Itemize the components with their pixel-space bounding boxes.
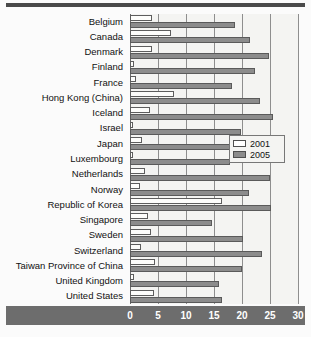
bar-2001 <box>130 107 150 113</box>
bar-row <box>130 274 298 289</box>
category-label: Republic of Korea <box>47 200 123 210</box>
bar-2001 <box>130 274 134 280</box>
bar-2005 <box>130 220 212 226</box>
bar-2001 <box>130 46 152 52</box>
x-tick-label-15: 15 <box>208 310 219 321</box>
category-label: United States <box>66 291 123 301</box>
bar-row <box>130 229 298 244</box>
category-label: France <box>93 78 123 88</box>
bar-2001 <box>130 152 133 158</box>
bar-2005 <box>130 281 219 287</box>
x-tick-label-10: 10 <box>180 310 191 321</box>
bar-row <box>130 259 298 274</box>
bar-2005 <box>130 22 235 28</box>
bar-2005 <box>130 175 270 181</box>
bar-2001 <box>130 198 222 204</box>
category-label: Israel <box>100 123 123 133</box>
bar-2001 <box>130 168 145 174</box>
category-label: Norway <box>91 185 123 195</box>
bar-row <box>130 15 298 30</box>
category-label: Netherlands <box>72 169 123 179</box>
bar-2001 <box>130 61 134 67</box>
bar-2001 <box>130 229 151 235</box>
bar-2001 <box>130 122 133 128</box>
bar-2001 <box>130 259 155 265</box>
bar-row <box>130 290 298 305</box>
category-label: United Kingdom <box>55 276 123 286</box>
legend-swatch-2005-icon <box>233 151 246 158</box>
category-label: Japan <box>97 139 123 149</box>
legend-label-2001: 2001 <box>250 139 270 149</box>
chart-figure: BelgiumCanadaDenmarkFinlandFranceHong Ko… <box>0 0 311 337</box>
bar-2001 <box>130 213 148 219</box>
bar-2001 <box>130 15 152 21</box>
bar-2005 <box>130 251 262 257</box>
bar-2005 <box>130 236 243 242</box>
legend-label-2005: 2005 <box>250 150 270 160</box>
bar-2005 <box>130 114 273 120</box>
bar-row <box>130 46 298 61</box>
bar-2005 <box>130 297 222 303</box>
x-tick-label-20: 20 <box>236 310 247 321</box>
bar-row <box>130 107 298 122</box>
bar-row <box>130 30 298 45</box>
bar-2005 <box>130 83 232 89</box>
bar-row <box>130 183 298 198</box>
category-label: Finland <box>92 62 123 72</box>
bar-2005 <box>130 205 271 211</box>
bar-2005 <box>130 144 241 150</box>
x-tick-label-5: 5 <box>155 310 161 321</box>
bar-2005 <box>130 129 241 135</box>
category-axis-labels: BelgiumCanadaDenmarkFinlandFranceHong Ko… <box>0 14 127 304</box>
bar-2001 <box>130 137 142 143</box>
bar-2005 <box>130 190 249 196</box>
bar-row <box>130 213 298 228</box>
category-label: Iceland <box>92 108 123 118</box>
bar-row <box>130 198 298 213</box>
bar-2005 <box>130 98 260 104</box>
bar-2005 <box>130 37 250 43</box>
top-divider-rule <box>6 3 305 7</box>
bar-2001 <box>130 76 136 82</box>
category-label: Denmark <box>84 47 123 57</box>
bar-row <box>130 76 298 91</box>
bar-2001 <box>130 183 140 189</box>
gridline-30 <box>298 14 299 304</box>
bar-row <box>130 91 298 106</box>
category-label: Canada <box>90 32 123 42</box>
category-label: Luxembourg <box>70 154 123 164</box>
legend-item-2001: 2001 <box>233 138 281 149</box>
bar-2005 <box>130 159 230 165</box>
x-tick-label-30: 30 <box>292 310 303 321</box>
value-axis-band: 051015202530 <box>6 306 305 325</box>
legend-swatch-2001-icon <box>233 140 246 147</box>
category-label: Taiwan Province of China <box>16 261 123 271</box>
category-label: Sweden <box>89 230 123 240</box>
bar-2001 <box>130 244 141 250</box>
bar-2001 <box>130 290 154 296</box>
category-label: Belgium <box>89 17 123 27</box>
chart-legend: 2001 2005 <box>229 135 285 163</box>
bar-2005 <box>130 53 269 59</box>
bar-2005 <box>130 68 255 74</box>
x-tick-label-25: 25 <box>264 310 275 321</box>
x-tick-label-0: 0 <box>127 310 133 321</box>
bar-row <box>130 244 298 259</box>
legend-item-2005: 2005 <box>233 149 281 160</box>
category-label: Hong Kong (China) <box>42 93 123 103</box>
category-label: Switzerland <box>74 246 123 256</box>
bar-row <box>130 61 298 76</box>
bar-2005 <box>130 266 242 272</box>
bar-2001 <box>130 91 174 97</box>
category-label: Singapore <box>80 215 123 225</box>
bar-2001 <box>130 30 171 36</box>
bar-row <box>130 168 298 183</box>
